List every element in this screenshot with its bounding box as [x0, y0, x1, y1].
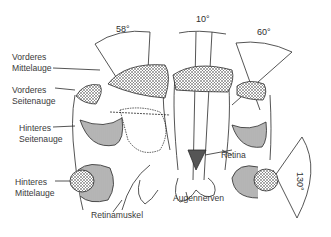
label-line-2: Mittelauge [15, 188, 55, 199]
label-retinamuskel: Retinamuskel [91, 210, 143, 221]
label-line-1: Vorderes [12, 85, 56, 96]
label-vorderes-seitenauge: Vorderes Seitenauge [12, 85, 56, 106]
angle-10: 10° [196, 14, 210, 24]
label-line-1: Hinteres [15, 177, 55, 188]
label-line-2: Seitenauge [19, 134, 63, 145]
angle-58: 58° [116, 24, 130, 34]
diagram-drawing [0, 0, 331, 237]
angle-60: 60° [257, 27, 271, 37]
angle-130: 130° [295, 172, 305, 191]
label-line-2: Mittelauge [12, 63, 52, 74]
label-line-2: Seitenauge [12, 96, 56, 107]
label-line-1: Vorderes [12, 52, 52, 63]
label-hinteres-seitenauge: Hinteres Seitenauge [19, 123, 63, 144]
label-retina: Retina [221, 150, 246, 161]
label-hinteres-mittelauge: Hinteres Mittelauge [15, 177, 55, 198]
label-vorderes-mittelauge: Vorderes Mittelauge [12, 52, 52, 73]
label-augennerven: Augennerven [173, 193, 224, 204]
spider-eye-diagram: Vorderes Mittelauge Vorderes Seitenauge … [0, 0, 331, 237]
label-line-1: Hinteres [19, 123, 63, 134]
